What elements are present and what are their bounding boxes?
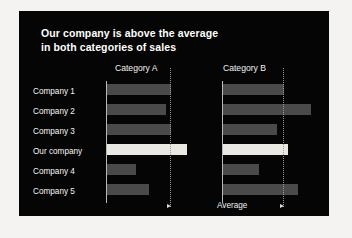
category-b-header: Category B xyxy=(223,63,266,73)
average-label: Average xyxy=(217,201,247,210)
bar-category-a-company-2 xyxy=(107,104,166,115)
bar-category-b-company-4 xyxy=(223,164,259,175)
row-label-company-1: Company 1 xyxy=(33,87,105,96)
average-marker-left-icon xyxy=(167,204,171,208)
bar-category-b-our-company xyxy=(223,144,288,155)
row-label-our-company: Our company xyxy=(33,147,105,156)
bar-chart: Category A Category B Company 1 Company … xyxy=(19,11,329,216)
average-marker-right-icon xyxy=(280,204,284,208)
category-a-header: Category A xyxy=(115,63,158,73)
bar-category-b-company-2 xyxy=(223,104,311,115)
row-label-company-4: Company 4 xyxy=(33,167,105,176)
bar-category-b-company-3 xyxy=(223,124,277,135)
row-label-company-3: Company 3 xyxy=(33,127,105,136)
average-line-category-a xyxy=(170,68,171,207)
bar-category-a-company-3 xyxy=(107,124,171,135)
average-line-category-b xyxy=(283,68,284,207)
bar-category-a-company-4 xyxy=(107,164,136,175)
bar-category-a-company-5 xyxy=(107,184,149,195)
row-label-company-2: Company 2 xyxy=(33,107,105,116)
presentation-slide: Our company is above the average in both… xyxy=(19,11,329,216)
row-label-company-5: Company 5 xyxy=(33,187,105,196)
bar-category-b-company-5 xyxy=(223,184,298,195)
bar-category-a-our-company xyxy=(107,144,187,155)
slide-page: Our company is above the average in both… xyxy=(0,0,352,238)
bar-category-b-company-1 xyxy=(223,84,284,95)
bar-category-a-company-1 xyxy=(107,84,171,95)
